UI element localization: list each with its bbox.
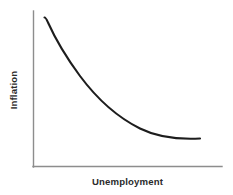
x-axis-label: Unemployment bbox=[33, 177, 222, 187]
chart-canvas bbox=[0, 0, 233, 195]
phillips-curve-figure: Unemployment Inflation bbox=[0, 0, 233, 195]
y-axis-label-container: Inflation bbox=[0, 12, 28, 167]
y-axis-label: Inflation bbox=[9, 70, 19, 109]
phillips-curve-path bbox=[45, 17, 201, 138]
